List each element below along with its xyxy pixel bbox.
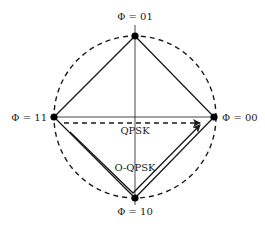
label-point-00: Φ = 00 [222, 112, 258, 123]
point-11 [50, 113, 57, 120]
label-oqpsk: O-QPSK [114, 162, 156, 173]
point-10 [131, 194, 138, 201]
label-qpsk: QPSK [120, 125, 150, 136]
diagram-canvas: Φ = 01 Φ = 00 Φ = 10 Φ = 11 QPSK O-QPSK [0, 0, 265, 228]
point-00 [210, 113, 217, 120]
label-point-01: Φ = 01 [117, 11, 153, 22]
point-01 [131, 32, 138, 39]
label-point-11: Φ = 11 [11, 112, 47, 123]
constellation-diagram: Φ = 01 Φ = 00 Φ = 10 Φ = 11 QPSK O-QPSK [0, 0, 265, 228]
label-point-10: Φ = 10 [117, 206, 153, 217]
